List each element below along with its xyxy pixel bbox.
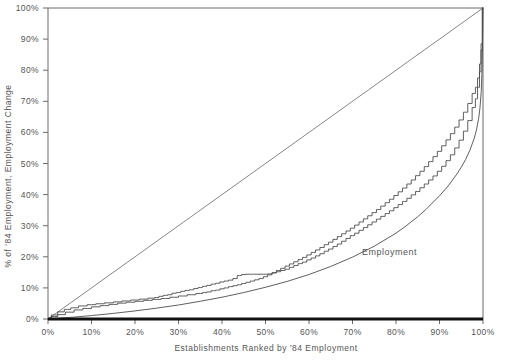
y-tick-label: 20% bbox=[21, 252, 39, 262]
y-tick-label: 30% bbox=[21, 221, 39, 231]
x-axis-title: Establishments Ranked by '84 Employment bbox=[174, 343, 357, 353]
x-tick-label: 30% bbox=[169, 327, 187, 337]
x-tick-label: 100% bbox=[471, 327, 494, 337]
x-tick-label: 0% bbox=[41, 327, 54, 337]
series-annotation-employment: Employment bbox=[362, 247, 417, 257]
x-tick-label: 90% bbox=[430, 327, 448, 337]
y-tick-label: 100% bbox=[16, 3, 39, 13]
y-tick-label: 10% bbox=[21, 283, 39, 293]
x-tick-label: 10% bbox=[82, 327, 100, 337]
y-tick-label: 60% bbox=[21, 127, 39, 137]
y-tick-label: 0% bbox=[26, 314, 39, 324]
chart-annotations: Employment bbox=[362, 247, 417, 257]
y-tick-label: 90% bbox=[21, 34, 39, 44]
y-tick-label: 40% bbox=[21, 190, 39, 200]
x-tick-label: 80% bbox=[387, 327, 405, 337]
x-tick-label: 40% bbox=[213, 327, 231, 337]
x-tick-label: 70% bbox=[343, 327, 361, 337]
x-tick-label: 50% bbox=[256, 327, 274, 337]
employment-lorenz-chart: 0%10%20%30%40%50%60%70%80%90%100% 0%10%2… bbox=[0, 0, 507, 360]
y-tick-label: 50% bbox=[21, 159, 39, 169]
x-tick-label: 20% bbox=[126, 327, 144, 337]
y-tick-label: 70% bbox=[21, 96, 39, 106]
y-tick-label: 80% bbox=[21, 65, 39, 75]
x-tick-label: 60% bbox=[300, 327, 318, 337]
y-axis-title: % of '84 Employment, Employment Change bbox=[3, 84, 13, 267]
